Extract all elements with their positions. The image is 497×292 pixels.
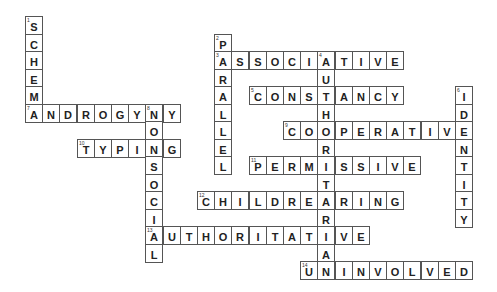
crossword-cell[interactable]: T [266,226,284,245]
crossword-cell[interactable]: N [352,86,370,105]
crossword-cell[interactable]: O [266,86,284,105]
crossword-cell[interactable]: L [214,121,232,140]
crossword-cell[interactable]: H [214,191,232,210]
crossword-cell[interactable]: I [369,156,387,175]
crossword-cell[interactable]: E [455,121,473,140]
crossword-cell[interactable]: I [128,139,146,158]
crossword-cell[interactable]: A7 [25,104,43,123]
crossword-cell[interactable]: R [283,191,301,210]
crossword-cell[interactable]: U14 [300,261,318,280]
crossword-cell[interactable]: L [214,156,232,175]
crossword-cell[interactable]: T [455,156,473,175]
crossword-cell[interactable]: V [369,261,387,280]
crossword-cell[interactable]: R [77,104,95,123]
crossword-cell[interactable]: I [249,226,267,245]
crossword-cell[interactable]: V [369,51,387,70]
crossword-cell[interactable]: S1 [25,16,43,35]
crossword-cell[interactable]: O [386,261,404,280]
crossword-cell[interactable]: R [283,156,301,175]
crossword-cell[interactable]: S [335,156,353,175]
crossword-cell[interactable]: T [403,121,421,140]
crossword-cell[interactable]: C5 [249,86,267,105]
crossword-cell[interactable]: Y [386,86,404,105]
crossword-cell[interactable]: T [335,51,353,70]
crossword-cell[interactable]: Y [94,139,112,158]
crossword-cell[interactable]: Y [128,104,146,123]
crossword-cell[interactable]: C [145,191,163,210]
crossword-cell[interactable]: A [283,226,301,245]
crossword-cell[interactable]: P [111,139,129,158]
crossword-cell[interactable]: R [369,121,387,140]
crossword-cell[interactable]: S [249,51,267,70]
crossword-cell[interactable]: T [317,86,335,105]
crossword-cell[interactable]: U [163,226,181,245]
crossword-cell[interactable]: O [317,121,335,140]
crossword-cell[interactable]: A [317,191,335,210]
crossword-cell[interactable]: G [163,139,181,158]
crossword-cell[interactable]: M [300,156,318,175]
crossword-cell[interactable]: V [386,156,404,175]
crossword-cell[interactable]: O [266,51,284,70]
crossword-cell[interactable]: N [369,191,387,210]
crossword-cell[interactable]: T [455,191,473,210]
crossword-cell[interactable]: N [352,261,370,280]
crossword-cell[interactable]: O [94,104,112,123]
crossword-cell[interactable]: P [335,121,353,140]
crossword-cell[interactable]: I6 [455,86,473,105]
crossword-cell[interactable]: P11 [249,156,267,175]
crossword-cell[interactable]: A [335,86,353,105]
crossword-cell[interactable]: V [335,226,353,245]
crossword-cell[interactable]: I [352,191,370,210]
crossword-cell[interactable]: O [145,121,163,140]
crossword-cell[interactable]: D [59,104,77,123]
crossword-cell[interactable]: A3 [214,51,232,70]
crossword-cell[interactable]: N [283,86,301,105]
crossword-cell[interactable]: I [352,51,370,70]
crossword-cell[interactable]: O [214,226,232,245]
crossword-cell[interactable]: T [180,226,198,245]
crossword-cell[interactable]: T [300,226,318,245]
crossword-cell[interactable]: N [42,104,60,123]
crossword-cell[interactable]: I [317,226,335,245]
crossword-cell[interactable]: D [266,191,284,210]
crossword-cell[interactable]: E [438,261,456,280]
crossword-cell[interactable]: I [317,156,335,175]
crossword-cell[interactable]: S [231,51,249,70]
crossword-cell[interactable]: C9 [283,121,301,140]
crossword-cell[interactable]: L [249,191,267,210]
crossword-cell[interactable]: E [300,191,318,210]
crossword-cell[interactable]: I [335,261,353,280]
crossword-cell[interactable]: S [352,156,370,175]
crossword-cell[interactable]: L [145,244,163,263]
crossword-cell[interactable]: H [197,226,215,245]
crossword-cell[interactable]: G [111,104,129,123]
crossword-cell[interactable]: R [335,191,353,210]
crossword-cell[interactable]: D [455,261,473,280]
crossword-cell[interactable]: G [386,191,404,210]
crossword-cell[interactable]: I [421,121,439,140]
crossword-cell[interactable]: V [438,121,456,140]
crossword-cell[interactable]: A13 [145,226,163,245]
crossword-cell[interactable]: I [300,51,318,70]
crossword-cell[interactable]: E [266,156,284,175]
crossword-cell[interactable]: E [352,121,370,140]
crossword-cell[interactable]: E [403,156,421,175]
crossword-cell[interactable]: E [386,51,404,70]
crossword-cell[interactable]: C [283,51,301,70]
crossword-cell[interactable]: V [421,261,439,280]
crossword-cell[interactable]: H [25,51,43,70]
crossword-cell[interactable]: I [231,191,249,210]
crossword-cell[interactable]: M [25,86,43,105]
crossword-cell[interactable]: S [145,156,163,175]
crossword-cell[interactable]: A [214,86,232,105]
crossword-cell[interactable]: A [386,121,404,140]
crossword-cell[interactable]: T10 [77,139,95,158]
crossword-cell[interactable]: L [403,261,421,280]
crossword-cell[interactable]: O [300,121,318,140]
crossword-cell[interactable]: C12 [197,191,215,210]
crossword-cell[interactable]: A4 [317,51,335,70]
crossword-cell[interactable]: C [369,86,387,105]
crossword-cell[interactable]: R [231,226,249,245]
crossword-cell[interactable]: S [300,86,318,105]
crossword-cell[interactable]: N [317,261,335,280]
